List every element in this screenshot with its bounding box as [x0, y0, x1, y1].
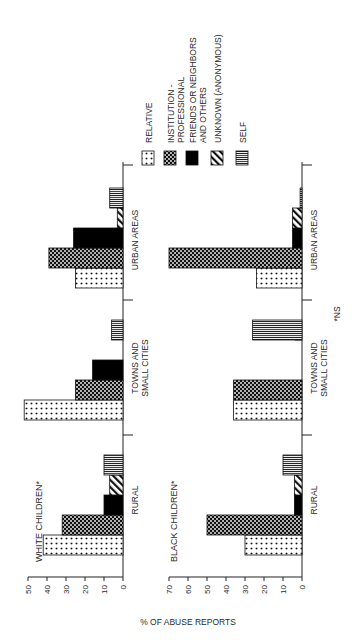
category-label: RURAL	[130, 485, 140, 514]
y-tick-label: 60	[184, 584, 193, 593]
bar-friends	[74, 228, 123, 248]
y-tick-label: 50	[24, 584, 33, 593]
y-tick-label: 0	[119, 584, 128, 589]
bar-relative	[24, 400, 123, 420]
bar-relative	[43, 535, 123, 555]
bar-institution	[62, 515, 123, 535]
bar-institution	[49, 248, 123, 268]
legend-swatch-relative	[142, 151, 154, 165]
panel-black-children: 010203040506070BLACK CHILDREN*RURALTOWNS…	[165, 162, 329, 594]
legend-swatch-friends	[186, 151, 198, 165]
y-tick-label: 10	[279, 584, 288, 593]
legend-label-relative: RELATIVE	[144, 102, 154, 143]
bar-friends	[294, 495, 302, 515]
bar-institution	[234, 380, 302, 400]
bar-self	[110, 188, 123, 208]
y-tick-label: 0	[298, 584, 307, 589]
bar-unknown	[293, 208, 303, 228]
y-tick-label: 70	[165, 584, 174, 593]
panel-title: WHITE CHILDREN*	[34, 480, 44, 562]
category-label: URBAN AREAS	[309, 209, 319, 270]
panel-title: BLACK CHILDREN*	[169, 480, 179, 562]
y-tick-label: 30	[241, 584, 250, 593]
bar-institution	[76, 380, 124, 400]
bar-relative	[234, 400, 302, 420]
category-label: RURAL	[309, 485, 319, 514]
bar-self	[253, 320, 302, 340]
bar-friends	[104, 495, 123, 515]
legend-swatch-institution	[164, 151, 176, 165]
y-tick-label: 20	[81, 584, 90, 593]
bar-unknown	[110, 475, 123, 495]
y-tick-label: 20	[260, 584, 269, 593]
bar-relative	[256, 268, 302, 288]
bar-institution	[169, 248, 302, 268]
category-label: SMALL CITIES	[319, 339, 329, 397]
y-tick-label: 40	[222, 584, 231, 593]
legend-label-self: SELF	[238, 122, 248, 143]
bar-relative	[76, 268, 124, 288]
footnote-ns: *NS	[332, 306, 342, 321]
legend-swatch-unknown	[211, 151, 223, 165]
bar-unknown	[294, 475, 302, 495]
category-label: TOWNS AND	[130, 342, 140, 393]
y-tick-label: 30	[62, 584, 71, 593]
bar-relative	[245, 535, 302, 555]
category-label: SMALL CITIES	[140, 339, 150, 397]
bar-unknown	[117, 208, 123, 228]
bar-self	[283, 455, 302, 475]
legend-label-friends: FRIENDS OR NEIGHBORS	[188, 37, 198, 143]
legend-label-institution: INSTITUTION -	[166, 84, 176, 143]
figure: 01020304050WHITE CHILDREN*RURALTOWNS AND…	[0, 0, 359, 640]
legend-swatch-self	[236, 151, 248, 165]
category-label: TOWNS AND	[309, 342, 319, 393]
y-axis-label: % OF ABUSE REPORTS	[140, 617, 236, 627]
legend-label-friends: AND OTHERS	[198, 87, 208, 143]
y-tick-label: 50	[203, 584, 212, 593]
bar-friends	[293, 228, 303, 248]
bar-friends	[93, 360, 123, 380]
y-tick-label: 10	[100, 584, 109, 593]
bar-institution	[207, 515, 302, 535]
panel-white-children: 01020304050WHITE CHILDREN*RURALTOWNS AND…	[24, 162, 150, 594]
bar-self	[112, 320, 123, 340]
abuse-reports-chart: 01020304050WHITE CHILDREN*RURALTOWNS AND…	[0, 0, 359, 640]
legend-label-institution: PROFESSIONAL	[176, 77, 186, 143]
y-tick-label: 40	[43, 584, 52, 593]
legend-label-unknown: UNKNOWN (ANONYMOUS)	[213, 34, 223, 143]
bar-self	[104, 455, 123, 475]
legend: RELATIVEINSTITUTION -PROFESSIONALFRIENDS…	[142, 34, 248, 165]
category-label: URBAN AREAS	[130, 209, 140, 270]
bar-self	[300, 188, 302, 208]
